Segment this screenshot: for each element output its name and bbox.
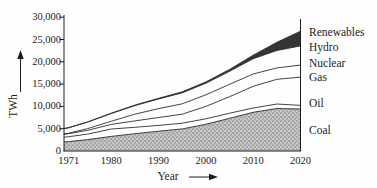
x-axis-title: Year	[150, 170, 186, 182]
x-tick-label: 2010	[235, 155, 271, 167]
y-tick-label: 25,000	[15, 34, 61, 46]
x-tick-label: 2020	[283, 155, 319, 167]
coal-area	[64, 109, 301, 152]
y-tick-label: 20,000	[15, 56, 61, 68]
y-tick-label: 15,000	[15, 78, 61, 90]
x-tick-label: 1990	[141, 155, 177, 167]
series-label-hydro: Hydro	[309, 41, 338, 54]
x-tick-label: 1980	[93, 155, 129, 167]
x-axis-arrow-head	[209, 174, 218, 180]
y-tick-label: 5,000	[15, 123, 61, 135]
x-tick-label: 1971	[51, 155, 87, 167]
series-label-nuclear: Nuclear	[309, 57, 345, 70]
y-tick-label: 30,000	[15, 11, 61, 23]
series-label-gas: Gas	[309, 71, 327, 84]
series-label-renewables: Renewables	[309, 26, 365, 39]
energy-area-chart: TWh Year 05,00010,00015,00020,00025,0003…	[0, 0, 377, 188]
y-tick-label: 10,000	[15, 100, 61, 112]
x-tick-label: 2000	[188, 155, 224, 167]
series-label-oil: Oil	[309, 97, 324, 110]
series-label-coal: Coal	[309, 124, 331, 137]
